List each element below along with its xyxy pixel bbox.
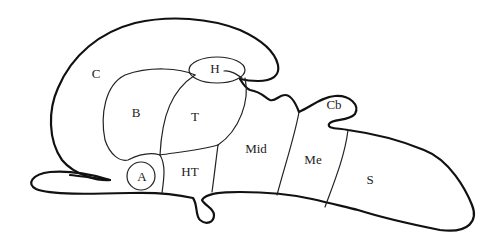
region-T-right bbox=[218, 78, 246, 145]
Me-S-divider bbox=[325, 130, 348, 207]
label-S: S bbox=[366, 172, 373, 187]
Mid-Me-divider bbox=[277, 112, 299, 195]
brain-diagram: C B T H A HT Mid Me S Cb bbox=[0, 0, 500, 246]
B-T-divider bbox=[160, 75, 195, 155]
label-H: H bbox=[210, 61, 219, 76]
H-pointer bbox=[224, 71, 242, 78]
label-A: A bbox=[137, 169, 147, 184]
label-Mid: Mid bbox=[245, 141, 267, 156]
label-Cb: Cb bbox=[326, 97, 341, 112]
HT-Mid-divider bbox=[212, 145, 218, 192]
label-HT: HT bbox=[181, 164, 198, 179]
label-T: T bbox=[191, 109, 199, 124]
HT-left-divider bbox=[160, 155, 164, 193]
label-Me: Me bbox=[304, 152, 322, 167]
label-B: B bbox=[132, 105, 141, 120]
T-HT-divider bbox=[160, 145, 218, 155]
region-B-outline bbox=[103, 69, 195, 160]
label-C: C bbox=[92, 66, 101, 81]
